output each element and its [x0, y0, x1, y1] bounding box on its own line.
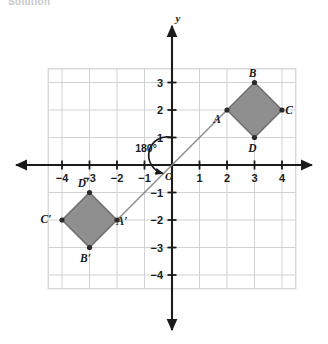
- vertex-label: A: [212, 113, 221, 125]
- coordinate-plane-svg: −4−3−2−11234321−1−2−3−4 y O 180° ABCDA′B…: [0, 0, 328, 344]
- x-tick-label: 2: [224, 172, 230, 184]
- quadrilateral-abcd: [227, 83, 282, 138]
- vertex-label: D′: [77, 177, 90, 189]
- vertex-point: [279, 107, 284, 112]
- x-tick-label: −4: [56, 172, 69, 184]
- y-tick-label: 2: [157, 104, 163, 116]
- vertex-point: [59, 217, 64, 222]
- vertex-point: [224, 107, 229, 112]
- y-tick-label: −3: [150, 242, 163, 254]
- quadrilateral-abcd-prime: [62, 193, 117, 248]
- x-tick-label: 1: [196, 172, 202, 184]
- vertex-label: C: [285, 104, 293, 116]
- x-tick-label: −2: [111, 172, 124, 184]
- x-tick-label: 3: [251, 172, 257, 184]
- vertex-label: A′: [116, 215, 128, 227]
- y-tick-label: 3: [157, 77, 163, 89]
- x-tick-label: 4: [279, 172, 286, 184]
- y-tick-label: −4: [150, 269, 163, 281]
- vertex-label: B: [248, 67, 257, 79]
- y-axis-label: y: [174, 12, 181, 24]
- coordinate-plane-figure: Solution −4−3−2−11234321−1−2−3−4 y O 180…: [0, 0, 328, 344]
- y-tick-label: −1: [150, 187, 163, 199]
- x-tick-label: −1: [138, 172, 151, 184]
- vertex-point: [252, 80, 257, 85]
- vertex-label: D: [247, 142, 257, 154]
- vertex-point: [87, 245, 92, 250]
- y-tick-label: −2: [150, 214, 163, 226]
- vertex-point: [87, 190, 92, 195]
- vertex-point: [252, 135, 257, 140]
- rotation-angle-label: 180°: [135, 142, 157, 154]
- vertex-label: B′: [79, 252, 91, 264]
- vertex-label: C′: [41, 213, 52, 225]
